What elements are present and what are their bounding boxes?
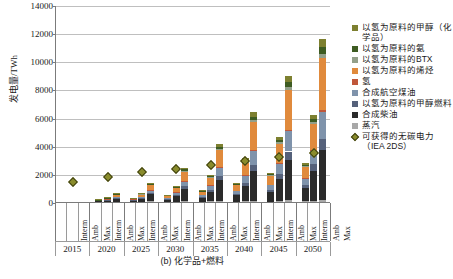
bar-segment (250, 165, 257, 171)
legend-swatch-icon (352, 90, 358, 96)
bar-segment (276, 174, 283, 179)
legend-item: 以氢为原料的甲醇燃料 (352, 98, 453, 108)
x-axis-year-label-2015: 2015 (55, 242, 89, 256)
bar-segment (310, 115, 317, 119)
bar-segment (250, 151, 257, 165)
x-axis-tick (147, 203, 148, 241)
bar-segment (216, 144, 223, 147)
bar-segment (147, 190, 154, 192)
legend-swatch-icon (352, 101, 358, 107)
legend-item: 可获得的无碳电力（IEA 2DS） (352, 131, 453, 151)
legend-item: 氢 (352, 76, 453, 86)
bar-segment (138, 194, 145, 196)
x-axis-year-label-2025: 2025 (124, 242, 158, 256)
bar-segment (207, 176, 214, 177)
bar-group-2050 (297, 6, 331, 202)
bar-segment (181, 181, 188, 186)
bar-segment (250, 122, 257, 149)
bar-segment (250, 171, 257, 201)
bar-segment (207, 190, 214, 192)
bar-segment (199, 197, 206, 198)
legend-item-label: 可获得的无碳电力（IEA 2DS） (362, 131, 453, 151)
bar-segment (113, 197, 120, 198)
bar-segment (147, 185, 154, 190)
bar-segment (276, 142, 283, 143)
bar-segment (138, 197, 145, 198)
bar-segment (164, 198, 171, 199)
x-axis-group-tick (296, 203, 297, 241)
bar-segment (285, 152, 292, 161)
bar-segment (164, 199, 171, 202)
x-axis-tick (215, 203, 216, 241)
x-axis-group-tick (227, 203, 228, 241)
x-axis-year-tick (330, 242, 331, 256)
legend-item: 合成航空煤油 (352, 87, 453, 97)
x-axis-year-label-2050: 2050 (296, 242, 330, 256)
y-axis-tick-label: 12000 (31, 30, 54, 39)
y-axis-tick-label: 8000 (35, 86, 53, 95)
bar-segment (216, 180, 223, 200)
plot-area: 02000400060008000100001200014000 (55, 6, 330, 203)
legend-item-label: 蒸汽 (362, 120, 380, 130)
x-axis-tick (112, 203, 113, 241)
bar-segment (242, 183, 249, 186)
legend: 以氢为原料的甲醇（化学品）以氢为原料的氨以氢为原料的BTX以氢为原料的烯烃氢合成… (352, 22, 453, 152)
bar-segment (276, 140, 283, 142)
legend-swatch-icon (352, 25, 358, 31)
bar-segment (216, 147, 223, 149)
bar-segment (113, 198, 120, 201)
bar-segment (181, 186, 188, 189)
bar-segment (302, 179, 309, 185)
bar-segment (199, 192, 206, 195)
x-axis-tick (319, 203, 320, 241)
bar-segment (276, 137, 283, 140)
y-axis-tick-label: 14000 (31, 2, 54, 11)
x-axis-tick (273, 203, 274, 241)
bar-segment (302, 201, 309, 202)
bar-segment (250, 150, 257, 151)
legend-item-label: 氢 (362, 76, 371, 86)
bar-segment (319, 200, 326, 202)
bar-segment (302, 166, 309, 167)
legend-swatch-icon (352, 68, 358, 74)
bar-segment (130, 200, 137, 202)
x-axis-scenario-label-2050-Max: Max (328, 203, 366, 241)
x-axis-scenario-labels: IntermAmbMaxIntermAmbMaxIntermAmbMaxInte… (55, 203, 330, 241)
legend-swatch-icon (352, 79, 358, 85)
bar-segment (267, 192, 274, 202)
bar-segment (138, 198, 145, 199)
legend-item: 合成柴油 (352, 109, 453, 119)
bar-segment (216, 167, 223, 168)
x-axis-tick (135, 203, 136, 241)
bar-segment (267, 174, 274, 175)
x-axis-tick (250, 203, 251, 241)
bar-segment (233, 185, 240, 191)
bar-segment (199, 195, 206, 197)
bar-segment (319, 54, 326, 58)
bar-segment (319, 139, 326, 150)
x-axis-tick (170, 203, 171, 241)
bar-segment (285, 130, 292, 132)
x-axis-tick (238, 203, 239, 241)
bar-segment (267, 190, 274, 192)
legend-swatch-icon (352, 123, 358, 129)
bar-segment (319, 58, 326, 110)
x-axis-tick (78, 203, 79, 241)
chart-figure: 发电量/TWh 02000400060008000100001200014000… (0, 0, 453, 279)
bar-segment (285, 87, 292, 90)
bar-segment (285, 82, 292, 87)
bar-segment (302, 163, 309, 165)
bar-segment (173, 188, 180, 192)
bar-segment (104, 200, 111, 202)
bar-segment (233, 184, 240, 185)
legend-diamond-marker-icon (351, 133, 359, 141)
bar-segment (319, 110, 326, 112)
bar-segment (302, 188, 309, 201)
bar-segment (310, 122, 317, 124)
bar-segment (267, 176, 274, 184)
bar-segment (130, 198, 137, 199)
bar-segment (233, 191, 240, 194)
x-axis-tick (66, 203, 67, 241)
bar-segment (285, 160, 292, 200)
legend-swatch-icon (352, 46, 358, 52)
